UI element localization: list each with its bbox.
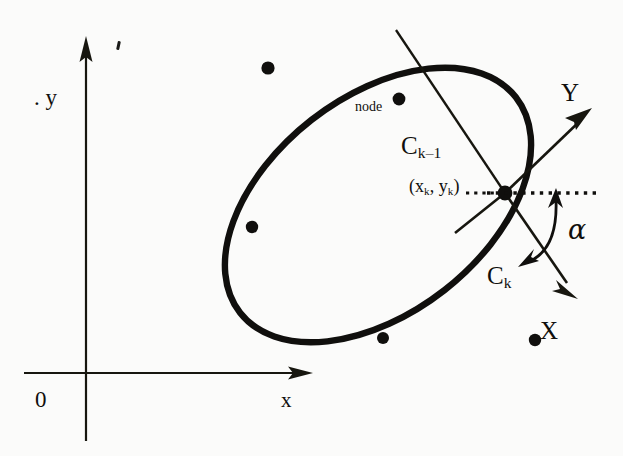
local-y-axis-line [505,120,581,193]
local-y-axis-label: Y [561,80,579,105]
angle-label: α [568,216,586,243]
coord-x-base: x [415,176,424,196]
coord-y-base: y [439,176,448,196]
global-origin-label: 0 [35,388,47,411]
segment-curr-label: Ck [487,263,512,291]
segment-curr-base: C [487,262,504,289]
node-label: node [355,100,382,114]
diagram-svg [0,0,623,456]
global-y-axis-label-text: y [46,85,58,110]
local-y-axis-extension [396,30,505,193]
local-y-axis-arrowhead [565,108,592,130]
global-y-axis-dot: . [34,85,46,110]
curve-node [377,332,389,344]
figure-canvas: . y x 0 node Ck–1 Ck (xk, yk) Y X α [0,0,623,456]
segment-prev-base: C [401,132,418,159]
global-y-axis-label: . y [34,86,57,109]
segment-curr-subscript: k [504,274,512,291]
curve-node [393,93,406,106]
point-coordinates-label: (xk, yk) [409,177,460,197]
segment-prev-label: Ck–1 [401,133,442,161]
local-x-axis-line [505,193,567,283]
local-x-axis-extension [455,193,505,233]
local-x-axis-label: X [540,318,558,343]
curve-nodes-group [246,61,541,346]
segment-prev-subscript: k–1 [418,144,442,161]
curve-node [261,61,274,74]
coord-close-paren: ) [454,176,460,196]
local-x-axis-arrowhead [552,280,578,299]
coord-separator: , [430,176,439,196]
curve-node [246,221,258,233]
global-axes-group [24,36,313,441]
global-x-axis-label: x [281,390,292,411]
